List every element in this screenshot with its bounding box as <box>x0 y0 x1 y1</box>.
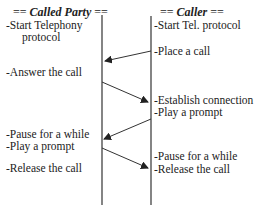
called-step: -Answer the call <box>6 66 82 78</box>
header-suffix: == <box>207 5 224 19</box>
caller-step: -Establish connection <box>154 94 253 106</box>
caller-title: Caller <box>177 5 208 19</box>
caller-step: -Place a call <box>154 45 210 57</box>
called-step: -Play a prompt <box>6 140 74 152</box>
called-step: -Start Telephony <box>6 19 83 31</box>
called-party-header: == Called Party == <box>13 6 108 19</box>
called-step: -Pause for a while <box>6 128 89 140</box>
caller-step: -Release the call <box>154 163 230 175</box>
caller-header: == Caller == <box>160 6 224 19</box>
called-party-title: Called Party <box>30 5 92 19</box>
called-step: -Release the call <box>6 162 82 174</box>
message-arrow-answer-call <box>102 82 148 102</box>
header-suffix: == <box>91 5 108 19</box>
message-arrow-release-call <box>102 148 148 168</box>
header-prefix: == <box>13 5 30 19</box>
caller-step: -Start Tel. protocol <box>154 19 241 31</box>
caller-step: -Play a prompt <box>154 106 222 118</box>
message-arrow-place-call <box>105 51 151 61</box>
message-arrow-play-prompt <box>104 119 151 139</box>
caller-step: -Pause for a while <box>154 150 237 162</box>
header-prefix: == <box>160 5 177 19</box>
called-step: protocol <box>22 31 60 43</box>
